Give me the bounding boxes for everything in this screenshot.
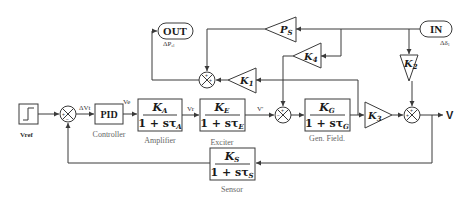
svg-text:ΔPel: ΔPel <box>163 40 175 48</box>
svg-text:+: + <box>205 72 208 78</box>
pid-controller-block: PID Controller <box>93 104 126 139</box>
exciter-block: KE 1 + sτE Exciter <box>200 99 245 147</box>
svg-text:+: + <box>406 112 409 118</box>
genfield-caption: Gen. Field. <box>309 134 345 143</box>
summing-junction-reference: + − <box>60 106 76 122</box>
exciter-caption: Exciter <box>210 138 233 147</box>
svg-text:+: + <box>410 107 413 113</box>
summing-junction-output: + + <box>404 107 420 123</box>
generator-field-block: KG 1 + sτG Gen. Field. <box>305 99 350 143</box>
svg-text:1 + sτS: 1 + sτS <box>210 166 253 180</box>
block-diagram: Vref + − ΔVt PID Controller Ve KA 1 + sτ… <box>0 0 470 201</box>
summing-junction-power: + + <box>199 72 215 88</box>
error-signal-label: ΔVt <box>79 104 91 112</box>
gain-k3: K3 <box>365 102 392 128</box>
svg-text:+: + <box>62 111 65 117</box>
summing-junction-generator: + − <box>275 107 291 123</box>
svg-text:1 + sτE: 1 + sτE <box>200 117 244 131</box>
wire-in-to-k4 <box>321 29 341 56</box>
gain-k1: K1 <box>228 68 256 93</box>
vref-label: Vref <box>20 131 34 139</box>
wire-k4-to-sum <box>283 56 293 106</box>
wire-ps-to-sum <box>207 29 265 71</box>
svg-text:1 + sτA: 1 + sτA <box>138 117 182 131</box>
sensor-caption: Sensor <box>221 185 243 194</box>
sensor-block: KS 1 + sτS Sensor <box>210 148 255 194</box>
svg-text:IN: IN <box>430 23 442 35</box>
svg-text:1 + sτG: 1 + sτG <box>305 117 349 131</box>
output-v-label: V <box>446 109 454 121</box>
in-port: IN Δδ1 <box>420 21 452 47</box>
out-port: OUT ΔPel <box>158 23 193 48</box>
step-input-block: Vref <box>19 104 38 139</box>
gain-ps: PS <box>265 17 296 42</box>
pid-label: PID <box>100 109 117 120</box>
pid-out-label: Ve <box>123 98 130 106</box>
svg-text:−: − <box>277 112 280 118</box>
gain-k4: K4 <box>293 43 321 68</box>
amplifier-caption: Amplifier <box>144 136 176 145</box>
amp-out-label: Vr <box>187 105 195 113</box>
svg-text:+: + <box>281 107 284 113</box>
exciter-out-label: V' <box>257 105 263 113</box>
svg-text:Δδ1: Δδ1 <box>440 39 450 47</box>
amplifier-block: KA 1 + sτA Amplifier <box>138 99 182 145</box>
svg-text:+: + <box>209 77 212 83</box>
gain-k2: K2 <box>400 55 418 81</box>
controller-caption: Controller <box>93 130 126 139</box>
svg-text:OUT: OUT <box>163 25 188 37</box>
svg-text:−: − <box>66 116 69 122</box>
